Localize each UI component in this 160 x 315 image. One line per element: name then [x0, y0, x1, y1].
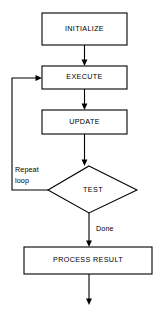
node-group: INITIALIZE EXECUTE UPDATE TEST PROCESS R…: [24, 13, 152, 274]
arrowhead-test-to-execute-loop: [36, 75, 43, 81]
flowchart-canvas: INITIALIZE EXECUTE UPDATE TEST PROCESS R…: [0, 0, 160, 315]
node-process-result[interactable]: PROCESS RESULT: [24, 247, 152, 274]
node-execute[interactable]: EXECUTE: [42, 66, 127, 89]
edge-label-repeat-loop-line1: Repeat: [15, 165, 39, 174]
node-initialize[interactable]: INITIALIZE: [42, 13, 127, 45]
edge-label-done: Done: [96, 224, 114, 233]
arrowhead-execute-to-update: [82, 104, 88, 111]
node-process-result-label: PROCESS RESULT: [53, 255, 123, 264]
arrowhead-process-result-to-end: [86, 299, 92, 306]
arrowhead-update-to-test: [82, 160, 88, 167]
node-test[interactable]: TEST: [48, 166, 137, 213]
node-update-label: UPDATE: [69, 117, 100, 126]
node-test-label: TEST: [83, 185, 103, 194]
node-execute-label: EXECUTE: [66, 72, 102, 81]
arrowhead-test-to-process-result: [86, 241, 92, 248]
node-update[interactable]: UPDATE: [42, 110, 127, 134]
arrowhead-initialize-to-execute: [82, 60, 88, 67]
flowchart-diagram: INITIALIZE EXECUTE UPDATE TEST PROCESS R…: [0, 0, 160, 315]
edge-label-repeat-loop-line2: loop: [15, 176, 29, 185]
node-initialize-label: INITIALIZE: [65, 24, 104, 33]
